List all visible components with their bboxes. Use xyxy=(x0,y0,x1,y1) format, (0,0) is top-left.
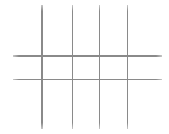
horizontal-grid-line xyxy=(13,79,162,81)
vertical-grid-line xyxy=(99,5,101,129)
vertical-grid-line xyxy=(41,5,43,129)
grid-canvas xyxy=(0,0,169,134)
vertical-grid-line xyxy=(72,5,74,129)
vertical-grid-line xyxy=(127,5,129,129)
horizontal-grid-line xyxy=(13,55,162,57)
